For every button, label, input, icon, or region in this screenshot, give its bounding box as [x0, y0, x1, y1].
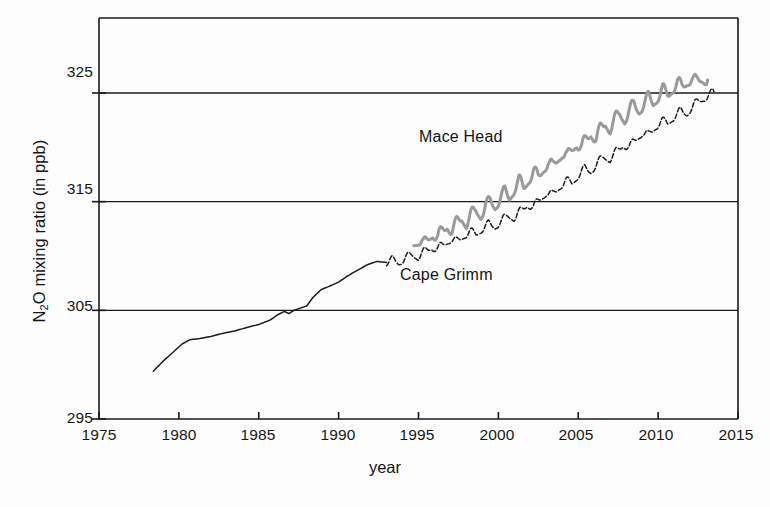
series-label-mace-head: Mace Head [419, 128, 503, 146]
chart-figure: 325 315 305 295 1975 1980 1985 1990 1995… [0, 0, 770, 507]
axis-ticks [92, 93, 738, 419]
xtick-label-1975: 1975 [69, 426, 129, 444]
xtick-label-1985: 1985 [228, 426, 288, 444]
xtick-label-1990: 1990 [308, 426, 368, 444]
ytick-label-295: 295 [53, 409, 93, 427]
x-axis-title: year [0, 458, 770, 477]
xtick-label-2015: 2015 [706, 426, 766, 444]
series-line-mace-head [414, 74, 708, 246]
xtick-label-2005: 2005 [546, 426, 606, 444]
series-label-cape-grimm: Cape Grimm [400, 266, 493, 284]
y-axis-title-prefix: N [30, 310, 48, 322]
y-axis-title-suffix: O mixing ratio (in ppb) [30, 140, 48, 305]
y-axis-title: N2O mixing ratio (in ppb) [30, 51, 56, 411]
ytick-label-305: 305 [53, 297, 93, 315]
ytick-label-325: 325 [53, 63, 93, 81]
axis-frame [99, 18, 738, 419]
xtick-label-1980: 1980 [149, 426, 209, 444]
y-axis-title-subscript: 2 [38, 304, 50, 310]
xtick-label-1995: 1995 [387, 426, 447, 444]
xtick-label-2000: 2000 [467, 426, 527, 444]
ytick-label-315: 315 [53, 180, 93, 198]
xtick-label-2010: 2010 [626, 426, 686, 444]
series-line-cape-grimm-smooth [153, 261, 386, 371]
data-series [153, 74, 714, 371]
